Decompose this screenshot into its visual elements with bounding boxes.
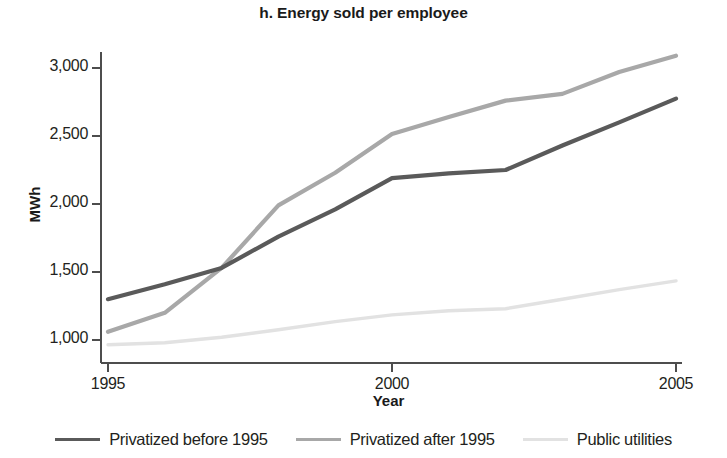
y-axis-label: MWh — [26, 165, 43, 245]
y-axis-tick-label: 3,000 — [12, 57, 88, 75]
x-axis-label: Year — [101, 392, 676, 409]
plot-area: 1,0001,5002,0002,5003,000 199520002005 M… — [0, 0, 727, 458]
y-axis-tick-label: 2,000 — [12, 193, 88, 211]
series-line — [108, 56, 676, 332]
series-line — [108, 99, 676, 300]
legend-item[interactable]: Privatized before 1995 — [55, 430, 268, 449]
legend-label: Privatized before 1995 — [109, 430, 268, 449]
y-axis-tick-label: 1,500 — [12, 261, 88, 279]
x-axis-tick-label: 1995 — [68, 375, 148, 393]
legend-item[interactable]: Public utilities — [523, 430, 672, 449]
legend-swatch-icon — [523, 438, 568, 441]
legend-label: Public utilities — [577, 430, 672, 449]
chart-figure: h. Energy sold per employee 1,0001,5002,… — [0, 0, 727, 458]
y-axis-tick-label: 1,000 — [12, 329, 88, 347]
chart-legend: Privatized before 1995Privatized after 1… — [0, 424, 727, 454]
y-axis-tick-label: 2,500 — [12, 125, 88, 143]
axes-group — [92, 52, 682, 372]
x-axis-tick-label: 2005 — [636, 375, 716, 393]
legend-label: Privatized after 1995 — [350, 430, 495, 449]
x-axis-tick-label: 2000 — [352, 375, 432, 393]
legend-swatch-icon — [55, 438, 100, 441]
series-lines-group — [108, 56, 676, 345]
legend-item[interactable]: Privatized after 1995 — [296, 430, 495, 449]
legend-swatch-icon — [296, 438, 341, 441]
